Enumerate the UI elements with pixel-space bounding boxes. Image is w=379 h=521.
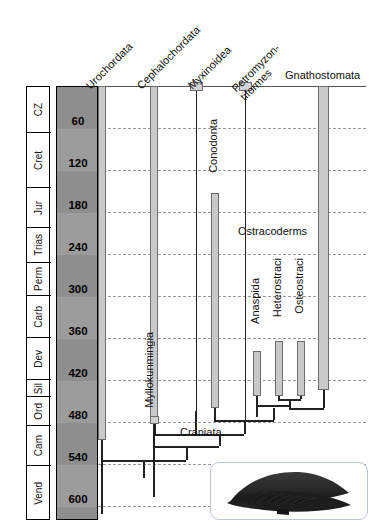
- phylogeny-plot: Conodonta Myllokunmingia Anaspida Hetero…: [98, 86, 366, 520]
- period-label: Sil: [34, 383, 44, 394]
- time-tick-label-120: 120: [57, 158, 98, 170]
- label-heterostraci: Heterostraci: [272, 258, 283, 317]
- label-craniata: Craniata: [180, 427, 222, 438]
- gridline-480: [98, 422, 366, 423]
- time-tick-label-180: 180: [57, 200, 98, 212]
- period-label: Jur: [34, 201, 44, 215]
- period-label: CZ: [34, 103, 44, 116]
- range-bar-anaspida: [253, 351, 261, 396]
- time-tick-label-480: 480: [57, 410, 98, 422]
- stem-craniata-core: [244, 420, 246, 434]
- stem-anaspida-down: [256, 405, 258, 417]
- node-anaspida-join: [256, 405, 289, 407]
- stem-petromyzontiformes: [245, 91, 247, 396]
- label-conodonta: Conodonta: [208, 119, 219, 173]
- stem-chordate-inner: [186, 446, 188, 460]
- period-cell-cz: CZ: [27, 87, 51, 133]
- label-myxinoidea: Myxinoidea: [186, 44, 233, 91]
- stem-myllokunmingia: [154, 424, 156, 434]
- label-gnathostomata: Gnathostomata: [285, 70, 360, 81]
- time-tick-label-60: 60: [57, 116, 98, 128]
- period-cell-ord: Ord: [27, 397, 51, 426]
- time-tick-label-420: 420: [57, 368, 98, 380]
- period-label: Carb: [34, 306, 44, 328]
- time-tick-label-300: 300: [57, 284, 98, 296]
- stem-myxinoidea: [196, 91, 198, 411]
- period-label: Cret: [34, 151, 44, 170]
- stem-petromyzontiformes-lower: [245, 396, 247, 420]
- period-cell-cam: Cam: [27, 427, 51, 466]
- period-cell-vend: Vend: [27, 466, 51, 521]
- stem-chordata-root: [143, 460, 145, 478]
- range-bar-urochordata: [98, 86, 106, 440]
- stem-node-heterostraci-osteostraci: [289, 399, 291, 408]
- time-tick-label-540: 540: [57, 452, 98, 464]
- label-ostracoderms: Ostracoderms: [238, 226, 307, 237]
- time-scale-column: 60120180240300360420480540600: [56, 86, 98, 520]
- time-tick-label-600: 600: [57, 494, 98, 506]
- range-bar-myllokunmingia: [150, 416, 159, 424]
- period-cell-sil: Sil: [27, 380, 51, 397]
- range-bar-heterostraci: [275, 341, 283, 396]
- stem-ostracoderm-clade: [273, 408, 275, 420]
- period-label: Trias: [34, 234, 44, 256]
- period-cell-perm: Perm: [27, 263, 51, 296]
- period-cell-dev: Dev: [27, 338, 51, 380]
- period-cell-trias: Trias: [27, 228, 51, 264]
- time-band-tail: [57, 507, 98, 520]
- label-myllokunmingia: Myllokunmingia: [144, 332, 155, 408]
- label-anaspida: Anaspida: [250, 278, 261, 324]
- time-tick-label-360: 360: [57, 326, 98, 338]
- period-cell-carb: Carb: [27, 296, 51, 338]
- figure-canvas: CZCretJurTriasPermCarbDevSilOrdCamVend 6…: [0, 0, 379, 521]
- period-cell-jur: Jur: [27, 189, 51, 228]
- time-tick-label-240: 240: [57, 242, 98, 254]
- period-label: Cam: [34, 435, 44, 456]
- period-label: Dev: [34, 350, 44, 368]
- stem-spacer-c: [153, 434, 155, 446]
- geologic-period-column: CZCretJurTriasPermCarbDevSilOrdCamVend: [26, 86, 50, 520]
- fossil-inset-panel: [210, 462, 368, 520]
- node-ostracoderm-gnathostome-upper: [289, 408, 324, 410]
- range-bar-conodonta: [211, 193, 219, 408]
- label-osteostraci: Osteostraci: [294, 258, 305, 314]
- period-cell-cret: Cret: [27, 133, 51, 188]
- fossil-ostracoderm-silhouette-icon: [211, 463, 367, 519]
- label-urochordata: Urochordata: [84, 41, 135, 92]
- period-label: Vend: [34, 482, 44, 505]
- range-bar-osteostraci: [297, 341, 305, 396]
- period-label: Perm: [34, 267, 44, 291]
- stem-urochordata: [101, 440, 103, 514]
- period-label: Ord: [34, 403, 44, 420]
- range-bar-gnathostomata: [318, 86, 329, 390]
- stem-gnathostomata: [323, 390, 325, 408]
- stem-conodonta: [214, 408, 216, 420]
- stem-anaspida: [256, 396, 258, 405]
